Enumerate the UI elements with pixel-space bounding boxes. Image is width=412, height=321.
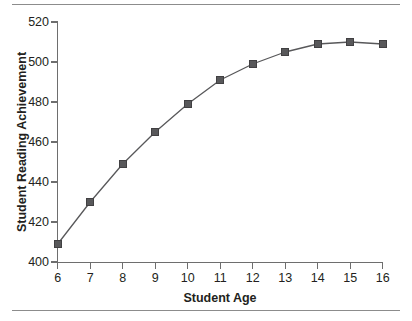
data-point-marker	[216, 76, 224, 84]
data-point-marker	[249, 60, 257, 68]
figure-container: 400420440460480500520 678910111213141516…	[0, 0, 412, 321]
data-point-marker	[54, 240, 62, 248]
data-point-marker	[281, 48, 289, 56]
data-point-marker	[86, 198, 94, 206]
y-axis-title: Student Reading Achievement	[15, 17, 29, 267]
data-point-marker	[314, 40, 322, 48]
line-chart-plot: 400420440460480500520 678910111213141516…	[0, 0, 412, 321]
data-point-marker	[184, 100, 192, 108]
series-line	[0, 0, 412, 321]
data-point-marker	[151, 128, 159, 136]
x-axis-title: Student Age	[57, 291, 383, 305]
data-point-marker	[346, 38, 354, 46]
data-point-marker	[379, 40, 387, 48]
data-point-marker	[119, 160, 127, 168]
